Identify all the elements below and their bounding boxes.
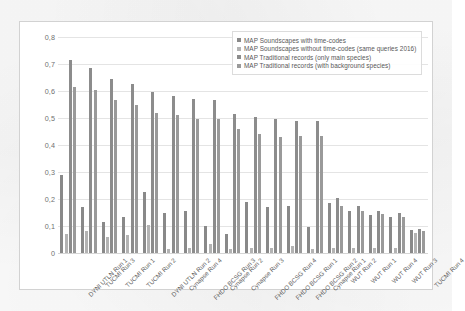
bar (295, 121, 298, 253)
bar (204, 226, 207, 253)
bar (316, 121, 319, 253)
bar-group (140, 37, 161, 253)
bar-group (181, 37, 202, 253)
bar (340, 206, 343, 253)
bar (418, 229, 421, 253)
bar (245, 202, 248, 253)
bar (110, 79, 113, 253)
bar (270, 248, 273, 253)
bar (233, 114, 236, 253)
bar (307, 227, 310, 253)
legend-item[interactable]: MAP Traditional records (with background… (237, 62, 416, 69)
bar (369, 215, 372, 253)
bar (402, 217, 405, 253)
y-axis-tick-label: 0,2 (45, 195, 55, 204)
bar (348, 211, 351, 253)
bar (394, 248, 397, 253)
y-axis-tick-label: 0,7 (45, 60, 55, 69)
bar (389, 217, 392, 253)
bar (328, 203, 331, 253)
legend-item-label: MAP Traditional records (with background… (244, 62, 391, 69)
bar (172, 96, 175, 253)
legend-swatch-icon (237, 47, 241, 51)
bar (287, 206, 290, 253)
bar (225, 234, 228, 253)
bar (398, 213, 401, 254)
bar (122, 217, 125, 253)
bar-group (120, 37, 141, 253)
bar (299, 136, 302, 253)
bar (410, 230, 413, 253)
y-axis-tick-label: 0,6 (45, 87, 55, 96)
bar (320, 136, 323, 253)
bar (237, 129, 240, 253)
bar (73, 87, 76, 253)
bar (114, 100, 117, 253)
bar (422, 231, 425, 253)
chart-frame: 0,80,70,60,50,40,30,20,10 MAP Soundscape… (19, 21, 433, 290)
y-axis-tick-label: 0,1 (45, 222, 55, 231)
bar (217, 119, 220, 253)
bar (131, 84, 134, 253)
bar (94, 90, 97, 253)
bar (102, 222, 105, 253)
legend-swatch-icon (237, 55, 241, 59)
bar (143, 192, 146, 253)
bar-group (79, 37, 100, 253)
bar (291, 246, 294, 253)
bar (250, 248, 253, 253)
bar-group (161, 37, 182, 253)
bar (414, 233, 417, 253)
bar (155, 113, 158, 253)
bar (106, 237, 109, 253)
legend-item-label: MAP Soundscapes without time-codes (same… (244, 45, 416, 52)
bar (336, 198, 339, 253)
legend-swatch-icon (237, 64, 241, 68)
bar (188, 248, 191, 253)
bar (352, 248, 355, 253)
bar (151, 92, 154, 253)
bar (377, 211, 380, 253)
bar (381, 214, 384, 253)
bar (266, 207, 269, 253)
legend-swatch-icon (237, 38, 241, 42)
bar (254, 117, 257, 253)
bar (332, 248, 335, 253)
bar (213, 100, 216, 253)
bar (184, 211, 187, 253)
y-axis-tick-label: 0,3 (45, 168, 55, 177)
chart-legend: MAP Soundscapes with time-codesMAP Sound… (232, 31, 422, 75)
bar (65, 234, 68, 253)
bar (209, 244, 212, 253)
gridline-0 (58, 253, 428, 254)
legend-item[interactable]: MAP Soundscapes with time-codes (237, 37, 416, 44)
bar (135, 105, 138, 254)
y-axis-tick-label: 0,5 (45, 114, 55, 123)
bar (89, 68, 92, 253)
bar-group (99, 37, 120, 253)
bar (60, 175, 63, 253)
bar (85, 231, 88, 253)
y-axis-tick-label: 0 (51, 249, 55, 258)
y-axis-tick-label: 0,4 (45, 141, 55, 150)
bar (81, 207, 84, 253)
x-axis-tick-label: DYNI UTLN Run 1 (87, 256, 129, 298)
bar (69, 60, 72, 253)
bar (361, 211, 364, 253)
y-axis-tick-label: 0,8 (45, 33, 55, 42)
bar (196, 119, 199, 253)
x-axis-labels: DYNI UTLN Run 1TUCMI Run 3TUCMI Run 1TUC… (58, 255, 428, 311)
bar (163, 213, 166, 254)
legend-item[interactable]: MAP Traditional records (only main speci… (237, 54, 416, 61)
bar (279, 137, 282, 253)
bar (126, 235, 129, 253)
bar (192, 99, 195, 253)
bar (373, 248, 376, 253)
bar-group (58, 37, 79, 253)
bar (176, 115, 179, 253)
y-axis-labels: 0,80,70,60,50,40,30,20,10 (39, 37, 58, 253)
bar (311, 249, 314, 253)
bar (258, 134, 261, 253)
legend-item-label: MAP Soundscapes with time-codes (244, 37, 346, 44)
legend-item[interactable]: MAP Soundscapes without time-codes (same… (237, 45, 416, 52)
